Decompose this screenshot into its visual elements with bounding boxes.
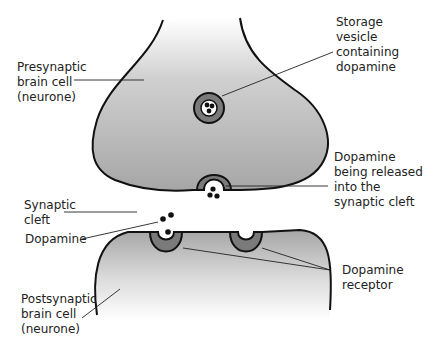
label-dopamine: Dopamine <box>25 232 87 247</box>
released-dopamine <box>207 186 219 198</box>
label-dopamine-receptor: Dopamine receptor <box>342 263 404 293</box>
label-dopamine-released: Dopamine being released into the synapti… <box>334 150 423 210</box>
label-storage-vesicle: Storage vesicle containing dopamine <box>336 15 399 75</box>
postsynaptic-cell <box>95 230 331 320</box>
label-synaptic-cleft: Synaptic cleft <box>24 198 76 228</box>
label-postsynaptic: Postsynaptic brain cell (neurone) <box>21 292 97 337</box>
cleft-dopamine <box>160 212 174 235</box>
storage-vesicle <box>194 93 224 123</box>
label-presynaptic: Presynaptic brain cell (neurone) <box>17 60 87 105</box>
